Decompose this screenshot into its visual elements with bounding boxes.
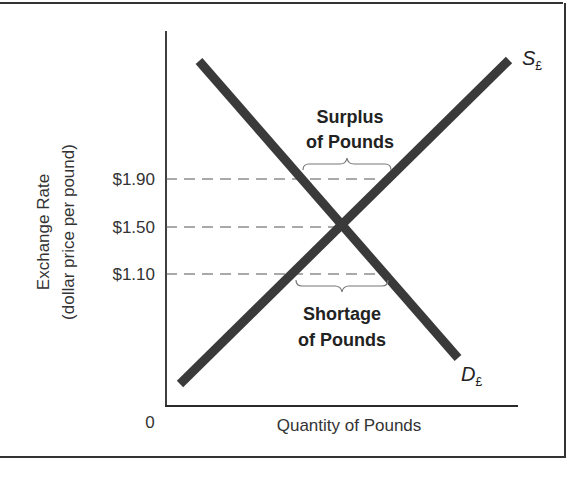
supply-curve-label: S£ — [522, 47, 542, 73]
surplus-label-line2: of Pounds — [306, 132, 394, 152]
y-tick-190: $1.90 — [112, 170, 155, 189]
demand-curve-label: D£ — [461, 363, 482, 389]
origin-label: 0 — [145, 413, 154, 432]
surplus-label-line1: Surplus — [316, 107, 383, 127]
y-tick-110: $1.10 — [112, 265, 155, 284]
y-axis-label-line1: Exchange Rate — [34, 174, 53, 290]
x-axis-label: Quantity of Pounds — [277, 416, 422, 435]
supply-demand-chart: Surplus of Pounds Shortage of Pounds S£ … — [0, 0, 587, 481]
shortage-label-line2: of Pounds — [298, 330, 386, 350]
y-axis-label-line2: (dollar price per pound) — [59, 144, 78, 320]
shortage-brace — [296, 280, 388, 292]
y-tick-150: $1.50 — [112, 218, 155, 237]
surplus-brace — [303, 158, 391, 170]
shortage-label-line1: Shortage — [303, 304, 381, 324]
